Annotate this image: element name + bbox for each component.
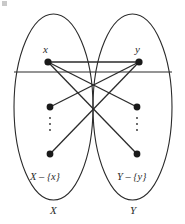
label-node-x: x	[43, 44, 48, 55]
ellipsis-right-dot-2	[136, 123, 138, 125]
label-set-y-minus-y: Y – {y}	[117, 172, 146, 183]
edge-y-to-x2	[50, 62, 139, 107]
node-y-second	[134, 104, 141, 111]
label-set-y: Y	[130, 205, 136, 216]
ellipsis-left-dot-2	[49, 123, 51, 125]
ellipsis-left-dot-3	[49, 129, 51, 131]
edge-y-to-x3	[50, 62, 139, 154]
node-y-third	[134, 151, 141, 158]
label-set-x: X	[50, 205, 57, 216]
ellipsis-right-dot-3	[136, 129, 138, 131]
label-set-x-minus-x: X – {x}	[30, 172, 60, 183]
figure-container: x y X – {x} Y – {y} X Y	[0, 0, 185, 224]
ellipsis-left-dot-1	[49, 117, 51, 119]
node-x-second	[47, 104, 54, 111]
diagram-canvas	[0, 0, 185, 224]
edge-x-to-y3	[48, 62, 137, 154]
node-x-third	[47, 151, 54, 158]
label-node-y: y	[135, 44, 140, 55]
node-x	[44, 58, 51, 65]
node-y	[135, 58, 142, 65]
ellipsis-right-dot-1	[136, 117, 138, 119]
